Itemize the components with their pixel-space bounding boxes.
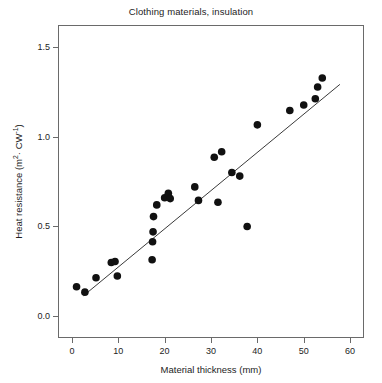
data-point — [149, 238, 157, 246]
data-point — [218, 148, 226, 156]
data-point — [111, 258, 119, 266]
y-axis-label: Heat resistance (m2· CW-1) — [12, 25, 28, 338]
x-tick-label: 0 — [69, 346, 74, 356]
data-point — [300, 101, 308, 109]
x-tick-mark — [350, 338, 351, 343]
y-tick-mark — [53, 226, 58, 227]
chart-title: Clothing materials, insulation — [0, 6, 382, 17]
y-label-text: · CW — [13, 134, 24, 156]
regression-line-segment — [84, 84, 340, 295]
data-point — [166, 195, 174, 203]
data-point — [228, 169, 236, 177]
y-tick-mark — [53, 47, 58, 48]
data-point — [150, 213, 158, 221]
data-point — [210, 153, 218, 161]
data-point — [214, 198, 222, 206]
data-point — [312, 95, 320, 103]
data-point — [149, 228, 157, 236]
scatter-plot-figure: Clothing materials, insulation 0.00.51.0… — [0, 0, 382, 383]
x-axis-label: Material thickness (mm) — [58, 364, 364, 375]
x-tick-label: 30 — [206, 346, 216, 356]
x-tick-mark — [118, 338, 119, 343]
x-tick-mark — [257, 338, 258, 343]
data-point — [236, 172, 244, 180]
x-tick-label: 20 — [160, 346, 170, 356]
data-point — [195, 197, 203, 205]
y-tick-mark — [53, 316, 58, 317]
y-label-text: Heat resistance (m — [13, 159, 24, 239]
plot-canvas — [58, 25, 364, 338]
data-point — [148, 256, 156, 264]
y-label-text: ) — [13, 124, 24, 127]
data-points-group — [73, 74, 326, 296]
x-tick-label: 50 — [299, 346, 309, 356]
x-tick-label: 40 — [252, 346, 262, 356]
data-point — [191, 183, 199, 191]
x-tick-mark — [165, 338, 166, 343]
regression-line — [84, 84, 340, 295]
y-label-superscript: -1 — [12, 127, 19, 133]
x-tick-label: 60 — [345, 346, 355, 356]
x-tick-mark — [211, 338, 212, 343]
data-point — [73, 283, 81, 291]
x-tick-mark — [72, 338, 73, 343]
data-point — [81, 288, 89, 296]
data-point — [243, 223, 251, 231]
data-point — [318, 74, 326, 82]
data-point — [92, 274, 100, 282]
data-point — [286, 107, 294, 115]
y-tick-mark — [53, 137, 58, 138]
y-label-superscript: 2 — [12, 155, 19, 159]
x-tick-mark — [304, 338, 305, 343]
data-point — [254, 121, 262, 129]
data-point — [314, 83, 322, 91]
data-point — [153, 201, 161, 209]
data-point — [114, 272, 122, 280]
x-tick-label: 10 — [113, 346, 123, 356]
